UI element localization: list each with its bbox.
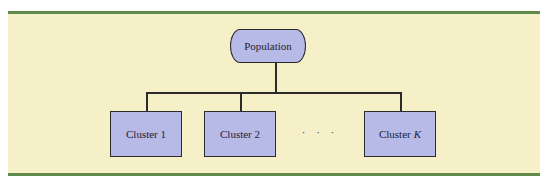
- population-label: Population: [244, 40, 292, 52]
- cluster-1-connector-line: [146, 92, 148, 111]
- cluster-2-node: Cluster 2: [204, 111, 276, 157]
- bottom-rule: [8, 173, 540, 176]
- cluster-k-connector-line: [400, 92, 402, 111]
- cluster-2-connector-line: [240, 92, 242, 111]
- ellipsis: · · ·: [300, 126, 340, 138]
- top-rule: [8, 11, 540, 14]
- cluster-1-node: Cluster 1: [110, 111, 182, 157]
- population-node: Population: [230, 29, 306, 63]
- cluster-k-label: Cluster: [379, 128, 411, 140]
- cluster-2-label: Cluster 2: [220, 128, 260, 140]
- cluster-k-node: ClusterK: [364, 111, 436, 157]
- cluster-1-label: Cluster 1: [126, 128, 166, 140]
- root-stem-line: [275, 63, 277, 93]
- horizontal-connector-line: [146, 92, 402, 94]
- cluster-k-suffix: K: [414, 128, 421, 140]
